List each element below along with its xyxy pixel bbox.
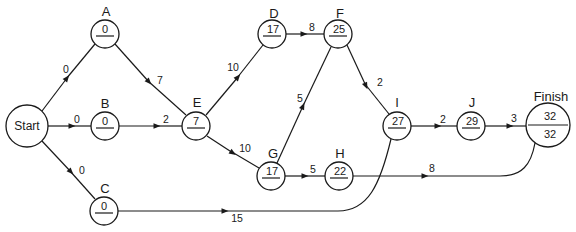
node-f: F 25 xyxy=(324,6,352,48)
node-label: B xyxy=(101,96,110,111)
node-j: J 29 xyxy=(457,95,485,140)
edge-f-i: 2 xyxy=(347,45,389,114)
edge-weight: 15 xyxy=(231,212,243,224)
edge-g-h: 5 xyxy=(285,163,325,176)
node-value: 17 xyxy=(267,23,279,35)
edge-weight: 2 xyxy=(440,113,446,125)
node-label: I xyxy=(395,95,399,110)
edge-weight: 2 xyxy=(377,76,383,88)
edge-weight: 0 xyxy=(74,113,80,125)
edge-weight: 5 xyxy=(297,92,303,104)
node-label: J xyxy=(469,95,476,110)
node-label: G xyxy=(268,146,278,161)
edge-j-finish: 3 xyxy=(485,112,526,126)
edge-start-c: 0 xyxy=(42,141,95,199)
node-h: H 22 xyxy=(325,146,353,190)
node-g: G 17 xyxy=(257,146,285,190)
node-label: F xyxy=(336,6,344,21)
edge-weight: 5 xyxy=(310,163,316,175)
node-value: 0 xyxy=(102,115,108,127)
node-value: 0 xyxy=(101,200,107,212)
node-label: C xyxy=(100,181,109,196)
edge-weight: 7 xyxy=(157,74,163,86)
edge-weight: 0 xyxy=(63,63,69,75)
edge-weight: 3 xyxy=(511,112,517,124)
node-finish: Finish 32 32 xyxy=(526,89,570,147)
node-value-top: 32 xyxy=(544,110,556,122)
node-label: D xyxy=(269,6,278,21)
edge-weight: 0 xyxy=(79,164,85,176)
edge-h-finish: 8 xyxy=(353,143,535,176)
node-d: D 17 xyxy=(258,6,286,48)
node-value-bottom: 32 xyxy=(544,128,556,140)
node-value: 22 xyxy=(334,165,346,177)
node-label: H xyxy=(335,146,344,161)
activity-network-diagram: 0 0 0 7 2 10 xyxy=(0,0,576,232)
edge-i-j: 2 xyxy=(411,113,457,126)
edge-a-e: 7 xyxy=(115,44,186,115)
node-start: Start xyxy=(6,105,48,147)
nodes: Start A 0 B 0 C 0 D 17 xyxy=(6,4,570,225)
node-label: A xyxy=(102,4,111,19)
edge-b-e: 2 xyxy=(119,113,182,126)
edge-g-f: 5 xyxy=(277,47,331,163)
node-label: Finish xyxy=(534,89,569,104)
edge-d-f: 8 xyxy=(286,21,324,34)
node-label: E xyxy=(193,95,202,110)
node-a: A 0 xyxy=(91,4,119,48)
edge-weight: 10 xyxy=(239,142,251,154)
edge-e-g: 10 xyxy=(207,136,259,168)
node-i: I 27 xyxy=(383,95,411,140)
node-e: E 7 xyxy=(182,95,210,140)
node-value: 29 xyxy=(466,115,478,127)
node-value: 25 xyxy=(333,23,345,35)
edge-start-a: 0 xyxy=(42,44,95,111)
node-b: B 0 xyxy=(91,96,119,140)
edge-weight: 2 xyxy=(163,113,169,125)
edge-start-b: 0 xyxy=(48,113,91,126)
edge-weight: 8 xyxy=(429,162,435,174)
edge-weight: 8 xyxy=(309,21,315,33)
edge-weight: 10 xyxy=(227,61,239,73)
node-label: Start xyxy=(14,119,40,133)
node-value: 17 xyxy=(266,165,278,177)
node-value: 0 xyxy=(102,23,108,35)
node-value: 27 xyxy=(392,115,404,127)
node-value: 7 xyxy=(193,115,199,127)
edge-e-d: 10 xyxy=(206,45,263,115)
node-c: C 0 xyxy=(90,181,118,225)
